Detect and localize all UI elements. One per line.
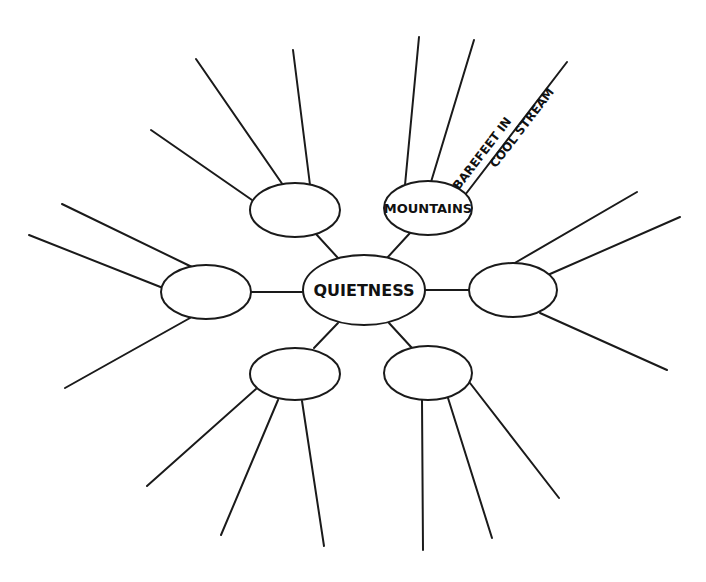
node-right	[469, 263, 557, 317]
spoke-line	[196, 59, 283, 185]
node-label: MOUNTAINS	[384, 201, 472, 216]
connector-line	[314, 323, 338, 348]
spoke-line	[405, 37, 419, 185]
spoke-line	[293, 50, 310, 185]
spoke-line	[62, 204, 192, 267]
spoke-line	[550, 217, 680, 274]
node-left	[161, 265, 251, 319]
spoke-line	[147, 389, 256, 486]
spoke-line	[151, 130, 252, 200]
node-bottom-right	[384, 346, 472, 400]
web-diagram: MOUNTAINSBAREFEET INCOOL STREAMQUIETNESS	[0, 0, 706, 582]
connector-line	[389, 323, 412, 348]
connector-line	[387, 233, 410, 258]
center-label: QUIETNESS	[313, 281, 414, 300]
spoke-line	[448, 398, 492, 538]
spoke-line	[65, 318, 190, 388]
spoke-line	[221, 400, 278, 535]
spoke-line	[513, 192, 637, 264]
spoke-line	[540, 313, 667, 370]
node-bottom-left	[250, 348, 340, 400]
node-top-left	[250, 183, 340, 237]
spoke-line	[302, 401, 324, 546]
spoke-line	[422, 400, 423, 550]
spoke-line	[470, 383, 559, 498]
connector-line	[316, 234, 338, 258]
